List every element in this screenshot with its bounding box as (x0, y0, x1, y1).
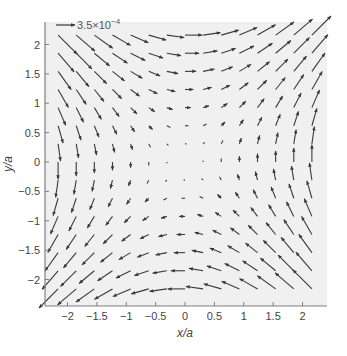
y-tick-label: −0.5 (18, 185, 40, 197)
quiver-chart: −2−1.5−1−0.500.511.52 −2−1.5−1−0.500.511… (0, 0, 347, 356)
y-tick-label: −1.5 (18, 244, 40, 256)
y-tick-label: 0 (34, 156, 40, 168)
x-tick-label: 1 (241, 310, 247, 322)
y-tick-label: 1 (34, 97, 40, 109)
x-tick-label: 0.5 (207, 310, 222, 322)
x-tick-label: 0 (182, 310, 188, 322)
y-tick-label: 0.5 (25, 127, 40, 139)
y-tick-label: 1.5 (25, 68, 40, 80)
y-tick-label: −1 (27, 215, 40, 227)
x-tick-label: 2 (299, 310, 305, 322)
x-axis-label: x/a (176, 326, 193, 340)
x-tick-label: −0.5 (145, 310, 167, 322)
x-tick-label: −2 (61, 310, 74, 322)
y-axis-label: y/a (1, 156, 15, 173)
y-tick-label: 2 (34, 39, 40, 51)
x-tick-label: −1.5 (86, 310, 108, 322)
y-tick-label: −2 (27, 274, 40, 286)
x-tick-label: −1 (120, 310, 133, 322)
x-tick-label: 1.5 (265, 310, 280, 322)
y-axis-ticks: −2−1.5−1−0.500.511.52 (18, 39, 49, 286)
